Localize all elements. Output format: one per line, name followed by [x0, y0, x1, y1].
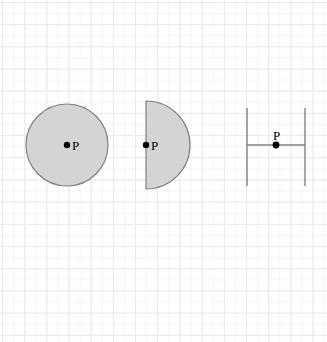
- point-p-label-circle: P: [72, 139, 79, 152]
- filled-semicircle-group: [143, 101, 190, 189]
- shapes-layer: [0, 0, 327, 342]
- filled-circle-group: [26, 104, 108, 186]
- point-p-label-semicircle: P: [151, 139, 158, 152]
- figure-canvas: P P P: [0, 0, 327, 342]
- parallel-lines-group: [247, 108, 305, 186]
- point-p-label-lines: P: [273, 129, 280, 142]
- point-p-dot-circle: [64, 142, 70, 148]
- point-p-dot-semicircle: [143, 142, 149, 148]
